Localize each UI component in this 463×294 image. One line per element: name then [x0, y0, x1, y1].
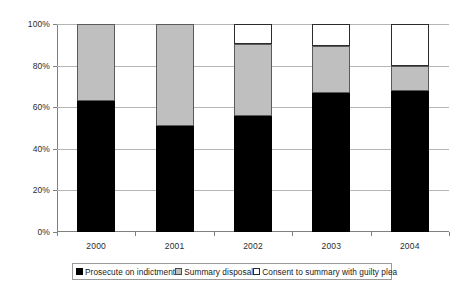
- bar-segment-prosecute[interactable]: [77, 101, 115, 232]
- stacked-bar-chart: 0%20%40%60%80%100% 20002001200220032004 …: [0, 0, 463, 294]
- bar-segment-prosecute[interactable]: [312, 93, 350, 232]
- legend-label-summary: Summary disposal: [184, 267, 253, 277]
- bar-group-2002: 2002: [214, 24, 292, 232]
- x-axis-label-2002: 2002: [243, 241, 263, 251]
- x-axis-tick: [292, 232, 293, 236]
- legend-item-prosecute[interactable]: Prosecute on indictment: [76, 267, 175, 277]
- y-axis-label: 100%: [28, 19, 50, 29]
- black-square-swatch-icon: [76, 268, 83, 275]
- bar-segment-prosecute[interactable]: [156, 126, 194, 232]
- bar-group-2001: 2001: [135, 24, 213, 232]
- bar-segment-summary[interactable]: [77, 24, 115, 101]
- stacked-bar[interactable]: [77, 24, 115, 232]
- plot-area-wrapper: 0%20%40%60%80%100% 20002001200220032004: [57, 24, 449, 232]
- x-axis-tick: [371, 232, 372, 236]
- x-axis-label-2001: 2001: [165, 241, 185, 251]
- bar-segment-consent[interactable]: [312, 24, 350, 46]
- bar-segment-prosecute[interactable]: [234, 116, 272, 232]
- bar-segment-summary[interactable]: [234, 44, 272, 116]
- stacked-bar[interactable]: [312, 24, 350, 232]
- x-axis-label-2004: 2004: [400, 241, 420, 251]
- legend-item-consent[interactable]: Consent to summary with guilty plea: [253, 267, 397, 277]
- y-axis-label: 80%: [33, 61, 50, 71]
- y-axis-label: 60%: [33, 102, 50, 112]
- bar-segment-prosecute[interactable]: [391, 91, 429, 232]
- x-axis-tick: [449, 232, 450, 236]
- stacked-bar[interactable]: [156, 24, 194, 232]
- legend-label-consent: Consent to summary with guilty plea: [262, 267, 397, 277]
- y-axis-label: 40%: [33, 144, 50, 154]
- bar-segment-consent[interactable]: [391, 24, 429, 66]
- chart-legend: Prosecute on indictment Summary disposal…: [72, 263, 392, 280]
- bar-group-2000: 2000: [57, 24, 135, 232]
- legend-label-prosecute: Prosecute on indictment: [85, 267, 175, 277]
- stacked-bar[interactable]: [391, 24, 429, 232]
- x-axis-tick: [135, 232, 136, 236]
- x-axis-tick: [57, 232, 58, 236]
- gray-square-swatch-icon: [175, 268, 182, 275]
- y-axis-label: 0%: [38, 227, 51, 237]
- x-axis-tick: [214, 232, 215, 236]
- bar-group-2004: 2004: [371, 24, 449, 232]
- white-square-swatch-icon: [253, 268, 260, 275]
- y-axis-label: 20%: [33, 185, 50, 195]
- x-axis-label-2003: 2003: [322, 241, 342, 251]
- bar-segment-summary[interactable]: [391, 66, 429, 91]
- bar-segment-summary[interactable]: [312, 46, 350, 93]
- bar-segment-consent[interactable]: [234, 24, 272, 44]
- bar-segment-summary[interactable]: [156, 24, 194, 126]
- bar-group-2003: 2003: [292, 24, 370, 232]
- stacked-bar[interactable]: [234, 24, 272, 232]
- legend-item-summary[interactable]: Summary disposal: [175, 267, 253, 277]
- x-axis-label-2000: 2000: [86, 241, 106, 251]
